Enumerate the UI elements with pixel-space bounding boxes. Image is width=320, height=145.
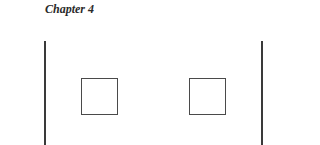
right-square xyxy=(189,78,226,115)
left-vertical-line xyxy=(44,41,46,145)
chapter-header: Chapter 4 xyxy=(45,2,94,16)
right-vertical-line xyxy=(261,41,263,145)
left-square xyxy=(81,78,118,115)
